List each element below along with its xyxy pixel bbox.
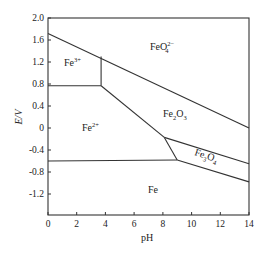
x-tick-label: 10 xyxy=(187,219,197,229)
y-tick-label: -0.4 xyxy=(29,145,44,155)
y-axis-label: E/V xyxy=(13,108,24,126)
y-axis-tick-labels: 2.0 1.6 1.2 0.8 0.4 0 -0.4 -0.8 -1.2 xyxy=(29,13,44,199)
y-tick-label: 0 xyxy=(39,123,44,133)
x-tick-label: 12 xyxy=(216,219,226,229)
region-label-fe2: Fe2+ xyxy=(82,121,99,133)
region-label-fe3o4: Fe3O4 xyxy=(193,146,220,166)
y-tick-label: 0.4 xyxy=(32,101,44,111)
x-tick-label: 4 xyxy=(103,219,108,229)
region-label-feo4: FeO2−4 xyxy=(150,40,174,54)
region-label-fe: Fe xyxy=(148,184,159,195)
x-axis-tick-labels: 0 2 4 6 8 10 12 14 xyxy=(46,219,254,229)
x-tick-label: 2 xyxy=(74,219,79,229)
x-axis-label: pH xyxy=(141,232,153,243)
y-tick-label: 1.6 xyxy=(32,35,44,45)
x-tick-label: 0 xyxy=(46,219,51,229)
y-tick-label: -1.2 xyxy=(29,189,44,199)
region-label-fe2o3: Fe2O3 xyxy=(163,108,187,121)
x-tick-label: 14 xyxy=(244,219,254,229)
y-tick-label: 0.8 xyxy=(32,79,44,89)
y-tick-label: 2.0 xyxy=(32,13,44,23)
y-tick-label: -0.8 xyxy=(29,167,44,177)
y-tick-label: 1.2 xyxy=(32,57,44,67)
boundary-fe2-fe xyxy=(48,160,177,161)
pourbaix-diagram: 2.0 1.6 1.2 0.8 0.4 0 -0.4 -0.8 -1.2 0 2… xyxy=(0,0,267,254)
region-label-fe3: Fe3+ xyxy=(64,56,81,68)
boundary-feo4-upper xyxy=(48,33,249,128)
x-tick-label: 8 xyxy=(161,219,166,229)
x-tick-label: 6 xyxy=(132,219,137,229)
boundary-fe2-fe2o3 xyxy=(101,86,164,138)
